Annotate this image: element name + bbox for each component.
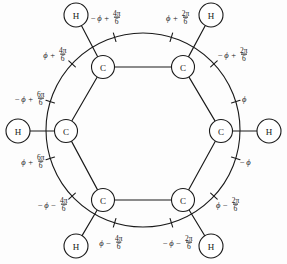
hydrogen-atom-label: H — [73, 242, 80, 252]
phase-expression: −ϕ−4π6 — [38, 197, 69, 214]
carbon-atom-label: C — [180, 196, 186, 206]
ch-bond — [188, 26, 205, 57]
fraction-denominator: 6 — [183, 17, 189, 26]
phi-symbol: ϕ — [166, 14, 170, 23]
phi-symbol: ϕ — [224, 51, 228, 60]
phi-symbol: ϕ — [169, 239, 173, 248]
fraction-numerator: 6π — [36, 90, 46, 98]
fraction-denominator: 6 — [38, 98, 44, 107]
phase-operator: + — [173, 14, 178, 23]
phase-sign: − — [15, 95, 20, 104]
fraction-denominator: 6 — [116, 242, 122, 251]
phase-fraction: 6π6 — [36, 90, 46, 107]
phase-expression: −ϕ+4π6 — [91, 10, 122, 27]
phase-sign: − — [240, 158, 245, 167]
carbon-atom-group: CCCCCC — [55, 56, 233, 212]
phase-label: ϕ+4π6 — [43, 47, 68, 64]
phase-label: −ϕ−4π6 — [38, 197, 69, 214]
fraction-denominator: 6 — [38, 161, 44, 170]
fraction-numerator: 4π — [59, 196, 69, 204]
carbon-atom-label: C — [180, 63, 186, 73]
carbon-atom-label: C — [100, 196, 106, 206]
phase-fraction: 2π6 — [181, 9, 191, 26]
phase-sign: − — [218, 51, 223, 60]
phi-symbol: ϕ — [21, 95, 25, 104]
phase-fraction: 2π6 — [231, 196, 241, 213]
phase-label: −ϕ+2π6 — [218, 47, 249, 64]
phase-operator: + — [28, 95, 33, 104]
phi-symbol: ϕ — [21, 158, 25, 167]
phase-label: ϕ — [242, 95, 246, 104]
phase-label: ϕ+6π6 — [21, 154, 46, 171]
phase-expression: ϕ+4π6 — [43, 47, 68, 64]
phase-operator: + — [50, 51, 55, 60]
cc-bond — [189, 141, 216, 190]
phi-symbol: ϕ — [43, 51, 47, 60]
carbon-atom-label: C — [100, 63, 106, 73]
phase-label: ϕ−2π6 — [216, 197, 241, 214]
phase-operator: + — [231, 51, 236, 60]
diagram-canvas: CCCCCC HHHHHH — [0, 0, 287, 264]
carbon-atom-label: C — [218, 127, 224, 137]
phase-expression: ϕ — [242, 95, 246, 104]
hydrogen-atom-label: H — [15, 127, 22, 137]
carbon-atom-label: C — [63, 127, 69, 137]
phase-operator: − — [51, 201, 56, 210]
phase-fraction: 4π6 — [58, 46, 68, 63]
phi-symbol: ϕ — [216, 201, 220, 210]
phase-fraction: 4π6 — [112, 9, 122, 26]
phi-symbol: ϕ — [242, 95, 246, 104]
fraction-numerator: 2π — [239, 46, 249, 54]
phase-sign: − — [91, 14, 96, 23]
phase-fraction: 2π6 — [184, 234, 194, 251]
phase-fraction: 4π6 — [114, 234, 124, 251]
hydrogen-atom-label: H — [266, 127, 273, 137]
phase-label: ϕ+2π6 — [166, 10, 191, 27]
phase-fraction: 6π6 — [36, 153, 46, 170]
benzene-phase-diagram: CCCCCC HHHHHH −ϕ+4π6ϕ+2π6ϕ+4π6−ϕ+2π6−ϕ+6… — [0, 0, 287, 264]
fraction-denominator: 6 — [60, 54, 66, 63]
fraction-denominator: 6 — [233, 204, 239, 213]
phi-symbol: ϕ — [97, 14, 101, 23]
phase-operator: + — [104, 14, 109, 23]
phi-symbol: ϕ — [246, 158, 250, 167]
phi-symbol: ϕ — [44, 201, 48, 210]
phase-sign: − — [38, 201, 43, 210]
phase-fraction: 4π6 — [59, 196, 69, 213]
fraction-denominator: 6 — [114, 17, 120, 26]
fraction-numerator: 4π — [112, 9, 122, 17]
phase-operator: − — [106, 239, 111, 248]
fraction-denominator: 6 — [61, 204, 67, 213]
phase-operator: + — [28, 158, 33, 167]
phase-label: ϕ−4π6 — [99, 235, 124, 252]
phase-label: −ϕ−2π6 — [163, 235, 194, 252]
phase-expression: −ϕ+6π6 — [15, 91, 46, 108]
phase-fraction: 2π6 — [239, 46, 249, 63]
phase-label: −ϕ+6π6 — [15, 91, 46, 108]
fraction-numerator: 2π — [184, 234, 194, 242]
fraction-numerator: 4π — [114, 234, 124, 242]
phase-expression: ϕ+6π6 — [21, 154, 46, 171]
fraction-numerator: 4π — [58, 46, 68, 54]
phi-symbol: ϕ — [99, 239, 103, 248]
fraction-denominator: 6 — [186, 242, 192, 251]
phase-label: −ϕ+4π6 — [91, 10, 122, 27]
fraction-numerator: 2π — [231, 196, 241, 204]
phase-expression: −ϕ+2π6 — [218, 47, 249, 64]
fraction-numerator: 6π — [36, 153, 46, 161]
fraction-denominator: 6 — [241, 54, 247, 63]
phase-expression: ϕ−2π6 — [216, 197, 241, 214]
cc-bond — [189, 77, 215, 121]
hydrogen-atom-label: H — [208, 11, 215, 21]
hydrogen-atom-label: H — [73, 11, 80, 21]
phase-operator: − — [223, 201, 228, 210]
phase-operator: − — [176, 239, 181, 248]
phase-expression: −ϕ — [240, 158, 251, 167]
ch-bond — [82, 26, 98, 57]
fraction-numerator: 2π — [181, 9, 191, 17]
phase-expression: −ϕ−2π6 — [163, 235, 194, 252]
phase-expression: ϕ−4π6 — [99, 235, 124, 252]
phase-sign: − — [163, 239, 168, 248]
cc-bond — [71, 141, 97, 190]
phase-label: −ϕ — [240, 158, 251, 167]
